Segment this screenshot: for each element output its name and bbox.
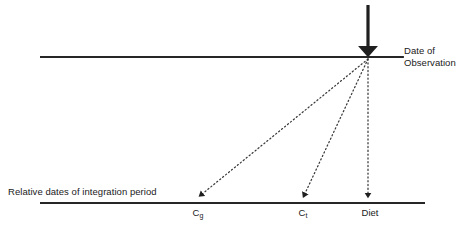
tick-label-ct-subscript: t <box>305 212 307 219</box>
tick-label-cg-subscript: g <box>199 212 203 219</box>
observation-timeline-label: Date of Observation <box>404 45 476 68</box>
tick-label-cg: Cg <box>193 207 204 219</box>
tick-label-diet: Diet <box>362 207 379 218</box>
integration-timeline-label: Relative dates of integration period <box>8 186 157 198</box>
projection-line-ct <box>305 59 369 195</box>
observation-label-line2: Observation <box>404 57 476 69</box>
tick-label-ct: Ct <box>299 207 308 219</box>
projection-line-cg <box>202 59 369 195</box>
observation-label-line1: Date of <box>404 45 435 56</box>
tick-label-cg-base: C <box>193 207 200 218</box>
figure-diagram: Date of Observation Relative dates of in… <box>0 0 476 228</box>
tick-label-ct-base: C <box>299 207 306 218</box>
